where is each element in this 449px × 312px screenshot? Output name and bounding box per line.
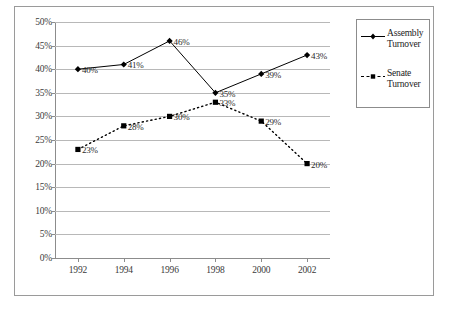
x-tick-label: 1994 <box>115 265 133 275</box>
x-tick-mark <box>170 258 171 262</box>
data-point-marker <box>213 100 218 105</box>
data-point-marker <box>258 71 264 77</box>
data-point-value-label: 39% <box>265 70 281 80</box>
data-point-value-label: 46% <box>174 37 190 47</box>
legend-label-line2: Turnover <box>387 79 420 89</box>
data-point-value-label: 30% <box>174 112 190 122</box>
data-point-value-label: 29% <box>265 117 281 127</box>
data-point-marker <box>75 66 81 72</box>
data-point-marker <box>121 123 126 128</box>
legend-label-line1: Senate <box>387 68 411 78</box>
x-tick-label: 1998 <box>206 265 224 275</box>
x-tick-mark <box>215 258 216 262</box>
y-tick-label: 15% <box>35 182 52 192</box>
data-point-marker <box>167 114 172 119</box>
data-point-value-label: 43% <box>311 51 327 61</box>
chart-legend: Assembly Turnover Senate Turnover <box>356 19 430 108</box>
data-point-value-label: 33% <box>219 98 235 108</box>
legend-swatch-solid-diamond-icon <box>361 32 385 41</box>
y-tick-label: 40% <box>35 64 52 74</box>
series-layer <box>55 22 330 258</box>
data-point-marker <box>304 161 309 166</box>
legend-swatch-dashed-square-icon <box>361 72 385 81</box>
legend-label-assembly-turnover: Assembly Turnover <box>387 28 423 50</box>
chart-figure-frame: 0%5%10%15%20%25%30%35%40%45%50% 40%41%46… <box>14 6 434 296</box>
x-tick-label: 2002 <box>298 265 316 275</box>
legend-label-line2: Turnover <box>387 39 420 49</box>
x-tick-mark <box>307 258 308 262</box>
y-tick-label: 10% <box>35 206 52 216</box>
data-point-value-label: 23% <box>82 145 98 155</box>
series-line-1 <box>78 41 307 93</box>
y-tick-label: 25% <box>35 135 52 145</box>
y-tick-label: 50% <box>35 17 52 27</box>
x-tick-mark <box>124 258 125 262</box>
y-tick-label: 30% <box>35 111 52 121</box>
data-point-value-label: 40% <box>82 65 98 75</box>
x-tick-mark <box>78 258 79 262</box>
x-axis-labels: 199219941996199820002002 <box>55 265 330 281</box>
y-axis-labels: 0%5%10%15%20%25%30%35%40%45%50% <box>15 22 52 258</box>
data-point-marker <box>75 147 80 152</box>
data-point-marker <box>259 119 264 124</box>
data-point-value-label: 28% <box>128 122 144 132</box>
y-tick-label: 45% <box>35 41 52 51</box>
data-point-value-label: 41% <box>128 60 144 70</box>
plot-area: 40%41%46%35%39%43%23%28%30%33%29%20% <box>55 22 330 258</box>
legend-label-senate-turnover: Senate Turnover <box>387 68 420 90</box>
legend-label-line1: Assembly <box>387 28 423 38</box>
y-tick-label: 20% <box>35 159 52 169</box>
x-tick-label: 1992 <box>69 265 87 275</box>
x-tick-label: 1996 <box>160 265 178 275</box>
x-tick-mark <box>261 258 262 262</box>
data-point-marker <box>121 61 127 67</box>
y-tick-label: 35% <box>35 88 52 98</box>
series-line-2 <box>78 102 307 163</box>
x-axis-ticks <box>55 258 330 263</box>
x-tick-label: 2000 <box>252 265 270 275</box>
data-point-marker <box>304 52 310 58</box>
data-point-value-label: 20% <box>311 160 327 170</box>
